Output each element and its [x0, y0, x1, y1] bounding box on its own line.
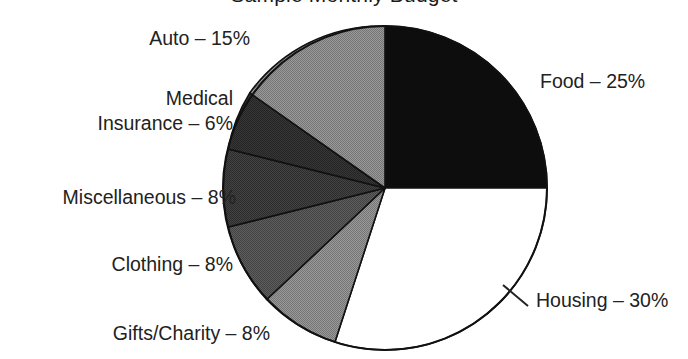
pie-label-clothing: Clothing – 8% — [112, 252, 233, 277]
pie-chart-figure: Sample Monthly Budget — [0, 0, 688, 359]
pie-slice-food — [385, 26, 547, 188]
pie-label-gifts-charity: Gifts/Charity – 8% — [113, 321, 270, 346]
pie-label-housing: Housing – 30% — [536, 288, 668, 313]
pie-label-medical-line1: Medical — [97, 86, 233, 111]
pie-label-miscellaneous: Miscellaneous – 8% — [63, 185, 236, 210]
pie-label-medical-insurance: Medical Insurance – 6% — [97, 86, 233, 136]
pie-label-auto: Auto – 15% — [149, 26, 250, 51]
pie-label-medical-line2: Insurance – 6% — [97, 111, 233, 136]
pie-label-food: Food – 25% — [540, 69, 645, 94]
